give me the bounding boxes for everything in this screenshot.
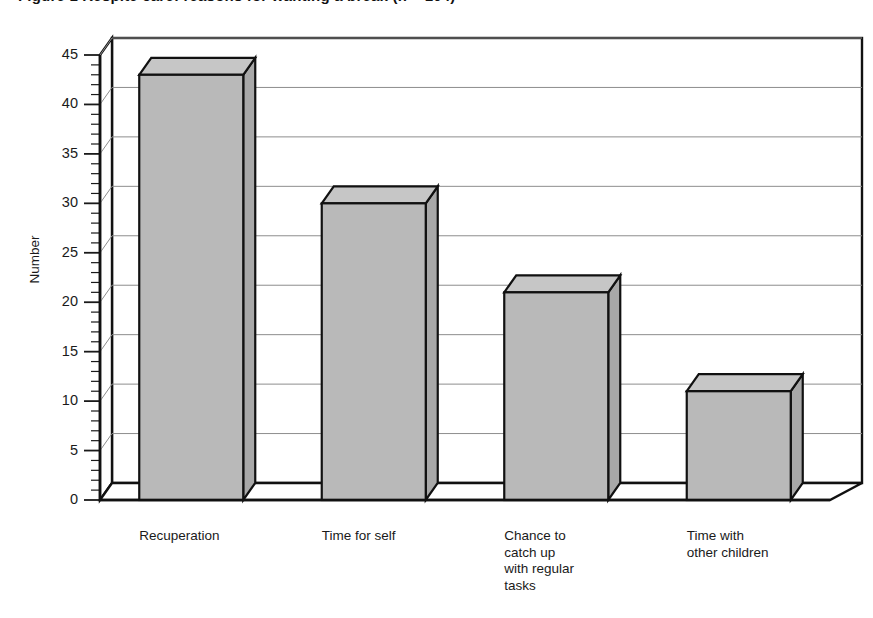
bar-top-face <box>139 58 255 75</box>
bar-front-face <box>504 292 608 500</box>
bar-side-face <box>243 58 255 500</box>
plot-area <box>0 0 873 618</box>
bar-side-face <box>791 374 803 500</box>
bar-front-face <box>139 75 243 500</box>
bar-side-face <box>608 275 620 500</box>
bar-4 <box>687 374 803 500</box>
left-wall <box>100 38 112 500</box>
bar-front-face <box>322 203 426 500</box>
bar-2 <box>322 186 438 500</box>
bar-3 <box>504 275 620 500</box>
bar-top-face <box>322 186 438 203</box>
bar-top-face <box>504 275 620 292</box>
chart-container: Figure 1 Respite care: reasons for wanti… <box>0 0 873 618</box>
bar-front-face <box>687 391 791 500</box>
bar-side-face <box>426 186 438 500</box>
bar-top-face <box>687 374 803 391</box>
bar-1 <box>139 58 255 500</box>
